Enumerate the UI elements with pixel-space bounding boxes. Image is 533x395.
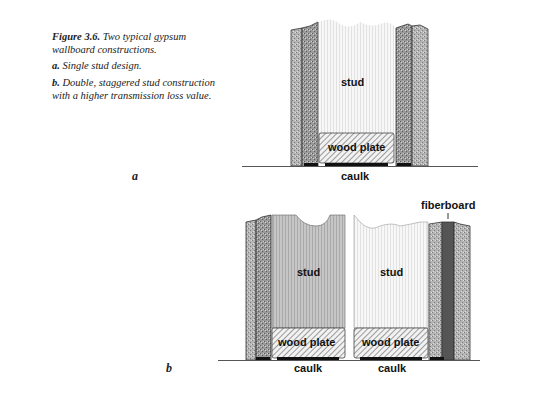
label-stud-a: stud: [341, 76, 364, 88]
label-caulk-b-left: caulk: [294, 362, 322, 374]
gypsum-board-b-left-inner: [256, 215, 271, 360]
label-stud-b-right: stud: [380, 266, 403, 278]
label-wood-plate-b-left: wood plate: [278, 336, 335, 348]
diagram-graphics: [0, 0, 533, 395]
caulk-a-left: [304, 163, 318, 166]
gypsum-board-right-inner: [396, 24, 412, 166]
label-wood-plate-b-right: wood plate: [362, 336, 419, 348]
caulk-a-center: [325, 163, 388, 166]
caulk-a-right: [397, 163, 411, 166]
label-wood-plate-a: wood plate: [328, 141, 385, 153]
label-stud-b-left: stud: [297, 266, 320, 278]
gypsum-board-b-right-outer: [454, 222, 470, 360]
diagram-b: [218, 213, 480, 361]
caulk-b-1: [256, 357, 270, 360]
gypsum-board-b-left-outer: [246, 220, 256, 360]
caulk-b-2: [277, 357, 339, 360]
gypsum-board-left-outer: [291, 28, 302, 166]
label-fiberboard: fiberboard: [421, 199, 475, 211]
caulk-b-3: [360, 357, 422, 360]
panel-label-a: a: [132, 169, 138, 184]
gypsum-board-b-right-inner: [429, 222, 442, 360]
panel-label-b: b: [166, 361, 172, 376]
label-caulk-a: caulk: [341, 170, 369, 182]
caulk-b-4: [430, 357, 444, 360]
gypsum-board-left-inner: [302, 22, 318, 166]
fiberboard-layer: [442, 222, 454, 360]
label-caulk-b-right: caulk: [378, 362, 406, 374]
gypsum-board-right-outer: [412, 25, 428, 166]
